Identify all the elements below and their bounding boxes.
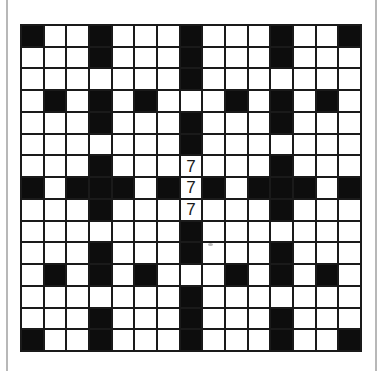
grid-cell[interactable]	[294, 113, 315, 133]
grid-cell[interactable]	[113, 113, 134, 133]
grid-cell[interactable]	[249, 200, 270, 220]
grid-cell[interactable]	[135, 178, 156, 198]
grid-cell[interactable]	[45, 309, 66, 329]
grid-cell[interactable]	[203, 330, 224, 350]
grid-cell[interactable]	[67, 91, 88, 111]
grid-cell[interactable]	[67, 200, 88, 220]
grid-cell[interactable]	[158, 156, 179, 176]
grid-cell[interactable]	[22, 156, 43, 176]
grid-cell[interactable]	[113, 265, 134, 285]
grid-cell[interactable]	[45, 287, 66, 307]
grid-cell[interactable]	[339, 200, 360, 220]
grid-cell[interactable]	[158, 222, 179, 242]
grid-cell[interactable]	[45, 200, 66, 220]
grid-cell[interactable]	[158, 135, 179, 155]
grid-cell[interactable]	[271, 287, 292, 307]
grid-cell[interactable]	[294, 222, 315, 242]
grid-cell[interactable]	[135, 243, 156, 263]
grid-cell[interactable]	[339, 69, 360, 89]
grid-cell[interactable]	[67, 287, 88, 307]
grid-cell[interactable]	[339, 48, 360, 68]
grid-cell[interactable]	[22, 91, 43, 111]
grid-cell[interactable]	[317, 330, 338, 350]
grid-cell[interactable]	[158, 69, 179, 89]
grid-cell[interactable]	[226, 113, 247, 133]
grid-cell[interactable]	[317, 135, 338, 155]
grid-cell[interactable]	[249, 113, 270, 133]
grid-cell[interactable]	[226, 69, 247, 89]
grid-cell[interactable]	[317, 48, 338, 68]
grid-cell[interactable]	[226, 178, 247, 198]
grid-cell[interactable]	[203, 243, 224, 263]
grid-cell[interactable]	[113, 156, 134, 176]
grid-cell[interactable]	[158, 91, 179, 111]
grid-cell[interactable]	[22, 69, 43, 89]
grid-cell[interactable]	[339, 156, 360, 176]
grid-cell[interactable]	[113, 309, 134, 329]
grid-cell[interactable]	[135, 156, 156, 176]
grid-cell[interactable]	[67, 113, 88, 133]
grid-cell[interactable]	[339, 113, 360, 133]
grid-cell[interactable]	[339, 222, 360, 242]
grid-cell[interactable]	[45, 48, 66, 68]
grid-cell[interactable]: 7	[181, 178, 202, 198]
grid-cell[interactable]	[67, 156, 88, 176]
grid-cell[interactable]	[249, 135, 270, 155]
grid-cell[interactable]	[294, 330, 315, 350]
grid-cell[interactable]	[226, 309, 247, 329]
grid-cell[interactable]	[45, 222, 66, 242]
grid-cell[interactable]	[113, 26, 134, 46]
grid-cell[interactable]	[67, 330, 88, 350]
grid-cell[interactable]	[45, 26, 66, 46]
grid-cell[interactable]	[135, 69, 156, 89]
grid-cell[interactable]	[294, 26, 315, 46]
grid-cell[interactable]	[317, 26, 338, 46]
grid-cell[interactable]	[67, 309, 88, 329]
grid-cell[interactable]	[113, 48, 134, 68]
grid-cell[interactable]	[249, 69, 270, 89]
grid-cell[interactable]	[158, 287, 179, 307]
grid-cell[interactable]	[203, 26, 224, 46]
grid-cell[interactable]: 7	[181, 156, 202, 176]
grid-cell[interactable]	[294, 243, 315, 263]
grid-cell[interactable]	[294, 200, 315, 220]
grid-cell[interactable]	[67, 69, 88, 89]
grid-cell[interactable]	[294, 156, 315, 176]
grid-cell[interactable]	[249, 287, 270, 307]
grid-cell[interactable]	[158, 265, 179, 285]
grid-cell[interactable]	[294, 48, 315, 68]
grid-cell[interactable]	[158, 243, 179, 263]
grid-cell[interactable]	[22, 135, 43, 155]
grid-cell[interactable]	[271, 69, 292, 89]
grid-cell[interactable]	[249, 156, 270, 176]
grid-cell[interactable]	[113, 69, 134, 89]
grid-cell[interactable]	[181, 265, 202, 285]
grid-cell[interactable]	[67, 222, 88, 242]
grid-cell[interactable]	[339, 243, 360, 263]
grid-cell[interactable]	[135, 26, 156, 46]
grid-cell[interactable]	[90, 135, 111, 155]
grid-cell[interactable]	[67, 26, 88, 46]
grid-cell[interactable]	[249, 26, 270, 46]
grid-cell[interactable]	[22, 287, 43, 307]
grid-cell[interactable]	[113, 243, 134, 263]
grid-cell[interactable]	[294, 91, 315, 111]
grid-cell[interactable]	[203, 69, 224, 89]
grid-cell[interactable]	[45, 178, 66, 198]
grid-cell[interactable]	[90, 287, 111, 307]
grid-cell[interactable]	[317, 200, 338, 220]
grid-cell[interactable]	[45, 113, 66, 133]
grid-cell[interactable]	[22, 113, 43, 133]
grid-cell[interactable]	[317, 287, 338, 307]
grid-cell[interactable]	[249, 48, 270, 68]
grid-cell[interactable]	[113, 200, 134, 220]
grid-cell[interactable]	[226, 222, 247, 242]
grid-cell[interactable]	[203, 113, 224, 133]
grid-cell[interactable]	[135, 287, 156, 307]
grid-cell[interactable]	[158, 309, 179, 329]
grid-cell[interactable]	[67, 265, 88, 285]
grid-cell[interactable]	[203, 156, 224, 176]
grid-cell[interactable]	[203, 200, 224, 220]
grid-cell[interactable]	[158, 48, 179, 68]
grid-cell[interactable]	[203, 135, 224, 155]
